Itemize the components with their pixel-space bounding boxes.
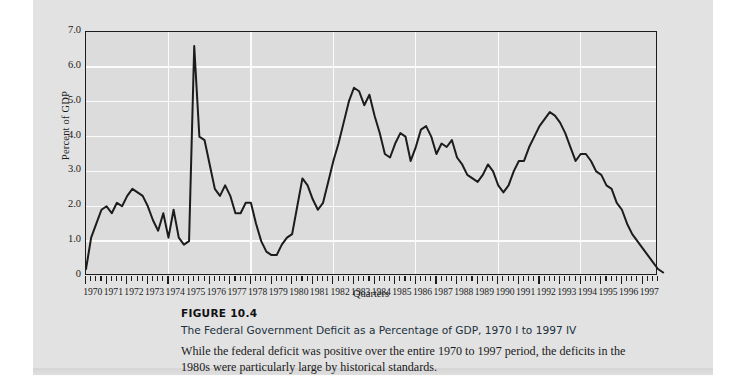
x-axis-tick-minor (575, 276, 576, 281)
x-axis-tick-minor (502, 276, 503, 281)
x-axis-tick-major (291, 276, 292, 284)
x-axis-tick-minor (554, 276, 555, 281)
x-axis-tick-minor (652, 276, 653, 281)
x-axis-tick-minor (348, 276, 349, 281)
x-axis-tick-minor (544, 276, 545, 281)
x-axis-tick-minor (564, 276, 565, 281)
panel-shadow (33, 368, 713, 377)
x-axis-tick-minor (595, 276, 596, 281)
x-axis-tick-minor (198, 276, 199, 281)
x-axis-tick-minor (358, 276, 359, 281)
x-axis-tick-minor (533, 276, 534, 281)
x-axis-tick-minor (131, 276, 132, 281)
x-axis-tick-minor (492, 276, 493, 281)
x-axis-tick-minor (100, 276, 101, 281)
x-axis-tick-minor (234, 276, 235, 281)
x-axis-tick-major (271, 276, 272, 284)
x-axis-tick-minor (404, 276, 405, 281)
x-axis-tick-minor (471, 276, 472, 281)
x-axis-tick-minor (343, 276, 344, 281)
x-axis-tick-minor (245, 276, 246, 281)
x-axis-tick-minor (368, 276, 369, 281)
x-axis-tick-minor (569, 276, 570, 281)
x-axis-tick-major (538, 276, 539, 284)
x-axis-tick-minor (338, 276, 339, 281)
x-axis-tick-minor (461, 276, 462, 281)
x-axis-tick-minor (585, 276, 586, 281)
x-axis-tick-minor (157, 276, 158, 281)
x-axis-tick-minor (441, 276, 442, 281)
x-axis-tick-minor (240, 276, 241, 281)
x-axis-tick-major (85, 276, 86, 284)
x-axis-tick-major (332, 276, 333, 284)
x-axis-tick-major (435, 276, 436, 284)
x-axis-tick-minor (317, 276, 318, 281)
x-axis-tick-minor (420, 276, 421, 281)
x-axis-tick-major (497, 276, 498, 284)
x-axis-tick-minor (482, 276, 483, 281)
x-axis-tick-major (106, 276, 107, 284)
x-axis-tick-minor (183, 276, 184, 281)
x-axis-tick-minor (214, 276, 215, 281)
x-axis-tick-minor (322, 276, 323, 281)
x-axis-tick-minor (636, 276, 637, 281)
x-axis-tick-minor (508, 276, 509, 281)
y-axis-tick-label: 5.0 (41, 94, 81, 105)
figure-number: FIGURE 10.4 (181, 307, 701, 319)
x-axis-tick-major (559, 276, 560, 284)
x-axis-tick-minor (255, 276, 256, 281)
x-axis-tick-minor (116, 276, 117, 281)
x-axis-tick-major (456, 276, 457, 284)
x-axis-tick-minor (137, 276, 138, 281)
x-axis-tick-minor (301, 276, 302, 281)
x-axis-tick-minor (657, 276, 658, 281)
x-axis-tick-minor (399, 276, 400, 281)
x-axis-tick-major (642, 276, 643, 284)
x-axis-tick-major (126, 276, 127, 284)
x-axis-tick-minor (296, 276, 297, 281)
x-axis-tick-minor (173, 276, 174, 281)
x-axis-tick-minor (523, 276, 524, 281)
x-axis-tick-major (477, 276, 478, 284)
x-axis-tick-minor (90, 276, 91, 281)
x-axis-tick-major (188, 276, 189, 284)
figure-page: Percent of GDP 01.02.03.04.05.06.07.0 19… (0, 0, 748, 391)
y-axis-tick-label: 6.0 (41, 59, 81, 70)
x-axis-tick-major (229, 276, 230, 284)
x-axis-tick-major (312, 276, 313, 284)
x-axis-tick-minor (631, 276, 632, 281)
x-axis-tick-minor (425, 276, 426, 281)
x-axis-tick-minor (307, 276, 308, 281)
x-axis-tick-minor (111, 276, 112, 281)
x-axis-tick-major (353, 276, 354, 284)
x-axis-tick-minor (605, 276, 606, 281)
x-axis-tick-major (167, 276, 168, 284)
x-axis-tick-minor (379, 276, 380, 281)
x-axis-tick-minor (327, 276, 328, 281)
x-axis-tick-minor (389, 276, 390, 281)
chart-area: Percent of GDP 01.02.03.04.05.06.07.0 19… (33, 0, 713, 300)
y-axis-tick-label: 2.0 (41, 198, 81, 209)
x-axis-tick-minor (260, 276, 261, 281)
x-axis-tick-minor (549, 276, 550, 281)
x-axis-tick-major (580, 276, 581, 284)
x-axis-tick-minor (487, 276, 488, 281)
deficit-line-series (86, 32, 658, 276)
plot-frame (85, 31, 657, 275)
x-axis-tick-minor (446, 276, 447, 281)
x-axis-tick-minor (152, 276, 153, 281)
x-axis-tick-minor (384, 276, 385, 281)
x-axis-tick-minor (363, 276, 364, 281)
x-axis-tick-minor (265, 276, 266, 281)
x-axis-tick-minor (142, 276, 143, 281)
x-axis-tick-minor (430, 276, 431, 281)
x-axis-tick-major (250, 276, 251, 284)
x-axis-tick-minor (528, 276, 529, 281)
x-axis-tick-minor (193, 276, 194, 281)
x-axis-tick-major (147, 276, 148, 284)
x-axis-tick-minor (224, 276, 225, 281)
x-axis-tick-minor (121, 276, 122, 281)
x-axis-tick-major (374, 276, 375, 284)
x-axis-tick-major (621, 276, 622, 284)
y-axis-tick-label: 7.0 (41, 24, 81, 35)
